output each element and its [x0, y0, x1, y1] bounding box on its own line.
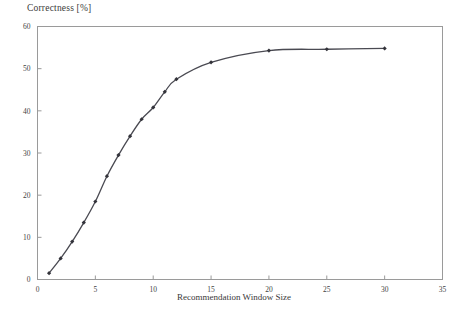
plot-area: 0102030405060 05101520253035: [0, 0, 456, 314]
chart-figure: Correctness [%] 0102030405060 0510152025…: [0, 0, 456, 314]
y-tick-label: 20: [23, 191, 31, 200]
y-tick-label: 50: [23, 64, 31, 73]
y-axis-tick-labels: 0102030405060: [23, 22, 31, 284]
x-axis-title: Recommendation Window Size: [0, 292, 456, 302]
y-tick-label: 40: [23, 107, 31, 116]
y-tick-label: 30: [23, 149, 31, 158]
x-axis-title-text: Recommendation Window Size: [177, 292, 291, 302]
y-tick-label: 60: [23, 22, 31, 31]
plot-frame: [38, 27, 443, 280]
y-tick-label: 10: [23, 233, 31, 242]
y-tick-label: 0: [27, 275, 31, 284]
